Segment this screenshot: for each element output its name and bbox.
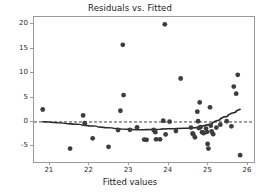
- y-tick-mark: [30, 121, 33, 122]
- scatter-point: [40, 107, 45, 112]
- scatter-point: [214, 125, 219, 130]
- scatter-point: [204, 130, 209, 135]
- scatter-point: [158, 137, 163, 142]
- residuals-vs-fitted-chart: Residuals vs. Fitted -505101520 21222324…: [0, 0, 260, 193]
- chart-title: Residuals vs. Fitted: [0, 3, 260, 13]
- y-tick-label: 20: [2, 19, 28, 27]
- scatter-point: [174, 129, 179, 134]
- scatter-point: [178, 76, 183, 81]
- scatter-point: [118, 108, 123, 113]
- scatter-point: [211, 132, 216, 137]
- y-tick-mark: [30, 97, 33, 98]
- scatter-point: [162, 22, 167, 27]
- scatter-point: [205, 142, 210, 147]
- scatter-point: [196, 119, 201, 124]
- scatter-point: [197, 100, 202, 105]
- x-tick-label: 25: [203, 166, 212, 174]
- x-axis-label: Fitted values: [0, 177, 260, 187]
- scatter-point: [231, 84, 236, 89]
- y-tick-label: 15: [2, 44, 28, 52]
- scatter-point: [128, 127, 133, 132]
- scatter-point: [235, 72, 240, 77]
- scatter-point: [189, 125, 194, 130]
- x-tick-mark: [49, 162, 50, 165]
- scatter-point: [224, 119, 229, 124]
- scatter-point: [153, 130, 158, 135]
- x-tick-label: 24: [163, 166, 172, 174]
- scatter-point: [135, 125, 140, 130]
- y-tick-mark: [30, 23, 33, 24]
- scatter-point: [163, 132, 168, 137]
- y-tick-label: 5: [2, 93, 28, 101]
- x-tick-mark: [88, 162, 89, 165]
- y-tick-mark: [30, 145, 33, 146]
- scatter-point: [206, 146, 211, 151]
- scatter-points: [40, 22, 242, 158]
- x-tick-mark: [128, 162, 129, 165]
- x-tick-mark: [247, 162, 248, 165]
- scatter-point: [120, 42, 125, 47]
- scatter-point: [208, 123, 213, 128]
- scatter-point: [193, 135, 198, 140]
- scatter-point: [234, 91, 239, 96]
- scatter-point: [90, 136, 95, 141]
- scatter-point: [161, 118, 166, 123]
- y-tick-label: -5: [2, 141, 28, 149]
- scatter-point: [198, 125, 203, 130]
- scatter-point: [144, 137, 149, 142]
- scatter-point: [82, 121, 87, 126]
- scatter-point: [167, 119, 172, 124]
- x-tick-label: 23: [124, 166, 133, 174]
- scatter-point: [81, 113, 86, 118]
- plot-canvas: [34, 17, 254, 162]
- scatter-point: [218, 122, 223, 127]
- scatter-point: [195, 109, 200, 114]
- scatter-point: [68, 146, 73, 151]
- x-tick-label: 22: [84, 166, 93, 174]
- y-tick-mark: [30, 72, 33, 73]
- x-tick-mark: [207, 162, 208, 165]
- y-tick-label: 10: [2, 68, 28, 76]
- scatter-point: [116, 128, 121, 133]
- y-tick-mark: [30, 48, 33, 49]
- x-tick-label: 26: [243, 166, 252, 174]
- x-tick-label: 21: [44, 166, 53, 174]
- x-tick-mark: [168, 162, 169, 165]
- scatter-point: [106, 144, 111, 149]
- scatter-point: [229, 124, 234, 129]
- scatter-point: [208, 105, 213, 110]
- y-tick-label: 0: [2, 117, 28, 125]
- scatter-point: [121, 93, 126, 98]
- plot-area: [33, 16, 255, 163]
- scatter-point: [238, 153, 243, 158]
